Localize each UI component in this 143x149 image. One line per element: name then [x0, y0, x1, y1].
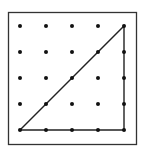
grid-peg [96, 128, 100, 132]
grid-peg [18, 76, 22, 80]
grid-peg [44, 76, 48, 80]
grid-peg [122, 76, 126, 80]
geoboard-diagram [0, 0, 143, 149]
grid-peg [96, 102, 100, 106]
grid-peg [44, 24, 48, 28]
grid-peg [70, 24, 74, 28]
grid-peg [122, 102, 126, 106]
grid-peg [18, 102, 22, 106]
grid-peg [18, 50, 22, 54]
grid-peg [18, 128, 22, 132]
grid-peg [122, 24, 126, 28]
grid-peg [70, 102, 74, 106]
grid-peg [96, 76, 100, 80]
grid-peg [70, 50, 74, 54]
grid-peg [70, 76, 74, 80]
grid-peg [44, 50, 48, 54]
grid-peg [70, 128, 74, 132]
grid-peg [122, 128, 126, 132]
grid-peg [122, 50, 126, 54]
grid-peg [44, 128, 48, 132]
grid-peg [96, 50, 100, 54]
grid-peg [96, 24, 100, 28]
grid-peg [44, 102, 48, 106]
grid-peg [18, 24, 22, 28]
